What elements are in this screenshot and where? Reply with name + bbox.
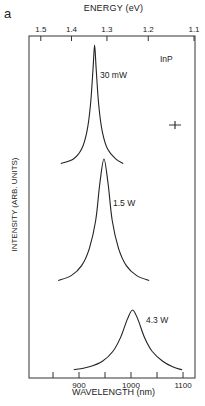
top-tick-label: 1.4 — [66, 25, 78, 34]
spectrum-curve — [58, 159, 149, 281]
spectra-plot: 1.51.41.31.21.1 90010001100 InP 30 mW 1.… — [0, 0, 205, 406]
top-tick-label: 1.3 — [101, 25, 113, 34]
top-tick-label: 1.5 — [35, 25, 47, 34]
plot-frame — [29, 36, 195, 378]
series-label-30mw: 30 mW — [100, 70, 127, 80]
top-tick-label: 1.2 — [143, 25, 155, 34]
bottom-axis-ticks: 90010001100 — [53, 372, 192, 390]
x-tick-label: 1000 — [122, 381, 140, 390]
series-label-1-5w: 1.5 W — [113, 198, 135, 208]
sample-label: InP — [160, 54, 173, 64]
series-label-4-3w: 4.3 W — [146, 315, 168, 325]
top-axis-ticks: 1.51.41.31.21.1 — [35, 25, 200, 41]
spectrum-curve — [61, 45, 123, 164]
x-tick-label: 1100 — [174, 381, 192, 390]
resolution-marker-icon — [169, 121, 181, 129]
x-tick-label: 900 — [72, 381, 86, 390]
top-tick-label: 1.1 — [188, 25, 200, 34]
